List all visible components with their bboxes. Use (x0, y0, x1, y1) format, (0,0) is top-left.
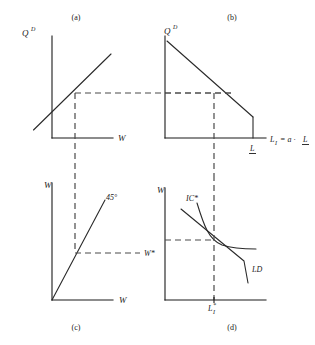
panel-c-x-axis-label: W (119, 295, 128, 305)
panel-b-x-axis-label-sub: I (274, 140, 278, 146)
panel-d-x-tick-label-superscript: * (213, 302, 216, 308)
panel-b-x-axis-label-rest: = a · (280, 135, 295, 144)
panel-a: (a) Q D W (22, 13, 232, 253)
panel-b-labor-requirement-curve (167, 41, 253, 117)
panel-c: (c) W W 45° W* (44, 180, 155, 332)
panel-b-y-axis-superscript: D (172, 24, 178, 30)
panel-a-supply-curve (34, 54, 112, 130)
panel-d-indifference-curve (197, 203, 256, 249)
panel-c-caption: (c) (72, 323, 81, 332)
panel-a-y-axis-superscript: D (30, 26, 36, 32)
panel-a-y-axis-label: Q (22, 28, 29, 38)
panel-c-forty-five-line (52, 200, 105, 300)
panel-b-caption: (b) (227, 13, 237, 22)
panel-b-y-axis-label: Q (164, 26, 171, 36)
panel-c-forty-five-label: 45° (106, 193, 118, 202)
panel-a-x-axis-label: W (118, 133, 127, 143)
panel-d: (d) W IC* LD L I * (157, 175, 266, 332)
panel-d-caption: (d) (227, 323, 237, 332)
panel-d-demand-curve-label: LD (251, 265, 262, 274)
panel-b-x-axis-label-bar: L (302, 135, 308, 144)
panel-d-indifference-curve-label: IC* (185, 194, 198, 203)
panel-b: (b) Q D L I = a · L L (164, 13, 309, 175)
figure-container: (a) Q D W (b) Q D L I = a · L (0, 0, 315, 345)
panel-c-value-label: W* (144, 249, 155, 258)
panel-a-caption: (a) (72, 13, 81, 22)
four-panel-diagram: (a) Q D W (b) Q D L I = a · L (0, 0, 315, 345)
panel-b-x-tick-label: L (249, 144, 255, 153)
panel-d-x-tick-label-sub: I (212, 309, 216, 315)
